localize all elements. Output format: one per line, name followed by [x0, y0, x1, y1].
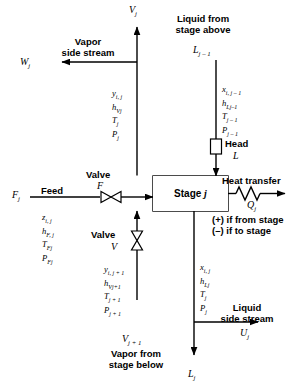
- vapor-valve-label: Valve: [91, 230, 115, 241]
- feed-valve-symbol: F: [97, 180, 103, 191]
- stage-box-index: j: [204, 188, 207, 199]
- vapor-out-symbol: Vj: [129, 4, 137, 18]
- feed-symbol: Fj: [12, 189, 20, 203]
- head-restriction-symbol: L: [233, 150, 239, 161]
- heat-transfer-symbol: Qj: [247, 199, 256, 213]
- vapor-out-properties: yi, j hVj Tj Pj: [112, 88, 122, 143]
- vapor-in-symbol: Vj + 1: [122, 333, 141, 347]
- vapor-in-properties: yi, j + 1 hVj+1 Tj + 1 Pj + 1: [104, 264, 124, 319]
- liquid-in-caption: Liquid from stage above: [148, 14, 258, 35]
- liquid-side-stream-symbol: Uj: [240, 327, 249, 341]
- heat-transfer-note: (+) if from stage (–) if to stage: [212, 215, 284, 236]
- liquid-in-symbol: Lj – 1: [193, 44, 211, 58]
- vapor-valve-icon: [132, 231, 143, 250]
- stage-box[interactable]: Stage j: [153, 176, 228, 211]
- feed-label: Feed: [41, 186, 63, 197]
- vapor-side-stream-caption: Vapor side stream: [43, 37, 133, 58]
- feed-properties: zi, j hF, j TFj PFj: [42, 212, 54, 267]
- liquid-out-symbol: Lj: [188, 368, 195, 382]
- liquid-side-stream-caption: Liquid side stream: [206, 303, 288, 324]
- head-restriction-label: Head: [225, 139, 248, 150]
- head-restriction-box: [211, 139, 222, 154]
- liquid-in-properties: xi, j – 1 hLj–1 Tj – 1 Pj – 1: [222, 84, 241, 139]
- stage-box-label: Stage: [174, 188, 201, 199]
- feed-valve-icon: [101, 192, 121, 203]
- vapor-in-caption: Vapor from stage below: [84, 349, 188, 370]
- heat-transfer-label: Heat transfer: [222, 176, 281, 187]
- vapor-valve-symbol: V: [111, 241, 117, 252]
- vapor-side-stream-symbol: Wj: [20, 56, 30, 70]
